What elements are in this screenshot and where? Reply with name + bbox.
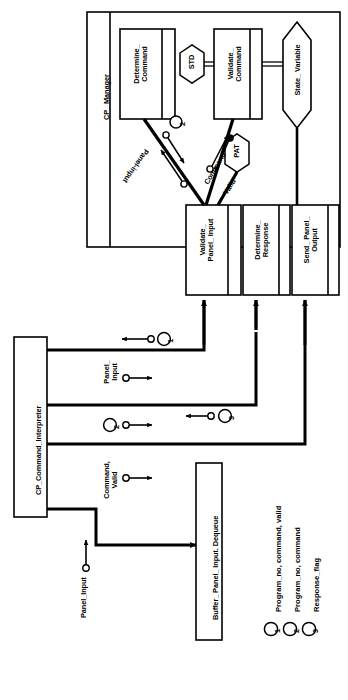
cp-command-interpreter-label: CP_Command_Interpreter xyxy=(35,406,43,495)
diagram-canvas: CP_ Manager Determine_ Command Validate_… xyxy=(0,0,348,700)
flow-label-panel-input-source: Panel_Input xyxy=(80,577,88,618)
marker-2-mid-label: 2 xyxy=(113,425,121,429)
dataflow-marker-2-mid xyxy=(104,419,152,432)
process-determine-response-label: Determine_ Response xyxy=(254,198,271,282)
dataflow-marker-1 xyxy=(122,333,170,346)
marker-3-mid-label: 3 xyxy=(228,416,236,420)
store-buffer-label: Buffer_ Panel_ Input. Dequeue xyxy=(212,516,220,620)
marker-1-top-label: 1 xyxy=(167,339,175,343)
link-interpreter-determine-response xyxy=(47,332,256,405)
dataflow-panel-input-source xyxy=(83,540,89,571)
legend-number-3: 3 xyxy=(312,629,320,633)
control-spec-std-label: STD xyxy=(188,48,196,76)
control-spec-pat-label: PAT xyxy=(233,137,241,165)
legend-number-1: 1 xyxy=(274,629,282,633)
process-validate-panel-input-label: Validate_ Panel_ Input xyxy=(199,198,216,282)
store-state-variable-label: State_ Variable xyxy=(294,28,302,112)
dataflow-marker-3-mid xyxy=(186,410,231,423)
legend-text-2: Program_no, command xyxy=(293,527,302,612)
cp-manager-label: CP_ Manager xyxy=(103,74,111,120)
legend-text-1: Program_no, command, valid xyxy=(274,506,283,612)
process-send-panel-output-label: Send_ Panel_ Output xyxy=(303,198,320,282)
marker-2-diagonal-label: 2 xyxy=(179,122,187,126)
link-interpreter-validate-panel-input xyxy=(47,345,204,350)
link-interpreter-buffer xyxy=(47,509,196,545)
flow-label-command-valid: Command, Valid xyxy=(103,454,120,506)
legend-text-3: Response_flag xyxy=(312,558,321,612)
flow-label-panel-input-vertical: Panel_ Input xyxy=(103,352,120,392)
dataflow-command-valid xyxy=(123,475,152,481)
dataflow-panel-input-vertical xyxy=(123,375,152,381)
process-determine-command-label: Determine_ Command xyxy=(133,22,150,106)
process-validate-command-label: Validate_ Command xyxy=(227,22,244,106)
legend-number-2: 2 xyxy=(293,629,301,633)
link-interpreter-send-panel-output xyxy=(47,345,305,444)
